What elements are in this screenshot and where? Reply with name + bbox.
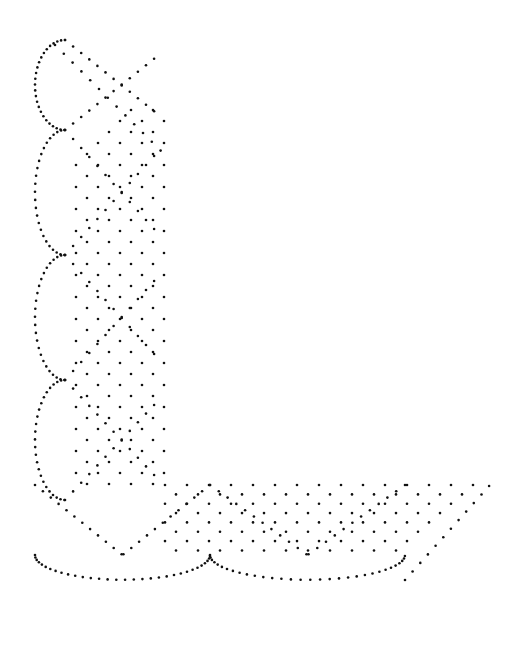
pricking-dots (34, 39, 491, 582)
lace-pricking-diagram (0, 0, 524, 656)
